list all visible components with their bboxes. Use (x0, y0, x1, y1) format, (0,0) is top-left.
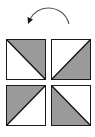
rotation-diagram (0, 0, 95, 137)
tile-bottom-left (6, 85, 46, 126)
tile-top-right (51, 39, 91, 80)
tile-bottom-right (51, 85, 91, 126)
tile-top-left (6, 39, 46, 80)
